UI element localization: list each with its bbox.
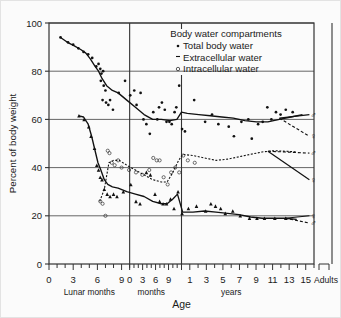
datapoint-total-body-water [173, 111, 176, 114]
adult-symbol-female-1: ♀ [310, 131, 316, 141]
ytick-label-80: 80 [31, 66, 42, 77]
x-segment-label-years: years [221, 287, 241, 297]
datapoint-total-body-water [102, 84, 105, 87]
datapoint-total-body-water [291, 111, 294, 114]
xtick-label-year-5: 5 [220, 274, 225, 285]
x-segment-label-months: months [138, 287, 165, 297]
datapoint-extracellular-water [176, 190, 180, 194]
xtick-label-year-7: 7 [237, 274, 242, 285]
datapoint-total-body-water [161, 101, 164, 104]
datapoint-extracellular-water [153, 192, 157, 196]
datapoint-total-body-water [163, 108, 166, 111]
datapoint-total-body-water [284, 108, 287, 111]
datapoint-extracellular-water [149, 173, 153, 177]
datapoint-total-body-water [139, 92, 142, 95]
datapoint-intracellular-water [186, 159, 189, 162]
datapoint-total-body-water [135, 104, 138, 107]
chart-canvas: 020406080100Percent of body weight036903… [1, 1, 341, 318]
datapoint-total-body-water [99, 79, 102, 82]
datapoint-extracellular-water [112, 192, 116, 196]
adult-branch-icw-female [268, 151, 309, 179]
datapoint-intracellular-water [134, 171, 137, 174]
ytick-label-20: 20 [31, 210, 42, 221]
ytick-label-60: 60 [31, 114, 42, 125]
datapoint-intracellular-water [152, 156, 155, 159]
body-water-chart-svg: 020406080100Percent of body weight036903… [1, 1, 341, 318]
datapoint-total-body-water [250, 137, 253, 140]
datapoint-total-body-water [181, 128, 184, 131]
datapoint-total-body-water [266, 106, 269, 109]
datapoint-total-body-water [158, 106, 161, 109]
adult-branch-icw-male [268, 151, 309, 153]
y-axis-title: Percent of body weight [7, 93, 18, 193]
datapoint-total-body-water [91, 57, 94, 60]
legend-label-2: Intracellular water [183, 63, 260, 74]
datapoint-intracellular-water [113, 164, 116, 167]
xtick-label-year-13: 13 [284, 274, 295, 285]
ytick-label-100: 100 [26, 18, 42, 29]
xtick-label-year-1: 1 [187, 274, 192, 285]
ytick-label-40: 40 [31, 162, 42, 173]
datapoint-total-body-water [184, 130, 187, 133]
x-segment-label-lunar-months: Lunar months [64, 287, 115, 297]
datapoint-total-body-water [275, 111, 278, 114]
datapoint-total-body-water [233, 135, 236, 138]
datapoint-intracellular-water [170, 171, 173, 174]
datapoint-extracellular-water [108, 195, 112, 199]
datapoint-extracellular-water [219, 207, 223, 211]
datapoint-intracellular-water [193, 161, 196, 164]
adult-symbol-male-2: ♂ [310, 148, 316, 158]
adult-branch-tbw-male [279, 115, 309, 119]
datapoint-extracellular-water [231, 209, 235, 213]
xtick-label-year-9: 9 [253, 274, 258, 285]
datapoint-total-body-water [129, 94, 132, 97]
datapoint-intracellular-water [166, 183, 169, 186]
xtick-label-adults: Adults [314, 275, 338, 285]
xtick-label-month-9: 9 [166, 274, 171, 285]
xtick-label-year-15: 15 [300, 274, 311, 285]
datapoint-total-body-water [105, 101, 108, 104]
xtick-label-month-6: 6 [153, 274, 158, 285]
datapoint-intracellular-water [108, 152, 111, 155]
datapoint-extracellular-water [214, 204, 218, 208]
legend-title: Body water compartments [170, 28, 282, 39]
ytick-label-0: 0 [37, 259, 42, 270]
datapoint-intracellular-water [110, 161, 113, 164]
xtick-label-year-3: 3 [204, 274, 209, 285]
datapoint-total-body-water [204, 120, 207, 123]
xtick-label-lunar-3: 3 [71, 274, 76, 285]
adult-branch-tbw-female [279, 118, 309, 136]
datapoint-extracellular-water [98, 175, 102, 179]
datapoint-total-body-water [257, 123, 260, 126]
datapoint-total-body-water [104, 89, 107, 92]
datapoint-total-body-water [112, 108, 115, 111]
datapoint-extracellular-water [138, 202, 142, 206]
datapoint-total-body-water [175, 106, 178, 109]
datapoint-total-body-water [101, 99, 104, 102]
xtick-label-lunar-6: 6 [95, 274, 100, 285]
datapoint-total-body-water [99, 67, 102, 70]
datapoint-intracellular-water [178, 171, 181, 174]
datapoint-total-body-water [109, 99, 112, 102]
adult-symbol-female-3: ♀ [310, 175, 316, 185]
datapoint-total-body-water [178, 84, 181, 87]
legend-label-1: Extracellular water [183, 52, 263, 63]
datapoint-total-body-water [142, 118, 145, 121]
datapoint-extracellular-water [145, 171, 149, 175]
datapoint-total-body-water [107, 104, 110, 107]
datapoint-extracellular-water [209, 202, 213, 206]
datapoint-intracellular-water [101, 202, 104, 205]
chart-figure: 020406080100Percent of body weight036903… [0, 0, 341, 318]
datapoint-total-body-water [170, 123, 173, 126]
datapoint-extracellular-water [105, 192, 109, 196]
datapoint-total-body-water [97, 63, 100, 66]
datapoint-extracellular-water [195, 204, 199, 208]
datapoint-extracellular-water [115, 195, 119, 199]
legend-marker-filled-dot-icon [177, 45, 180, 48]
xtick-label-year-11: 11 [268, 274, 278, 285]
datapoint-total-body-water [133, 89, 136, 92]
datapoint-total-body-water [124, 79, 127, 82]
legend-marker-open-circle-icon [176, 67, 179, 70]
datapoint-total-body-water [217, 123, 220, 126]
xtick-label-lunar-9: 9 [119, 274, 124, 285]
